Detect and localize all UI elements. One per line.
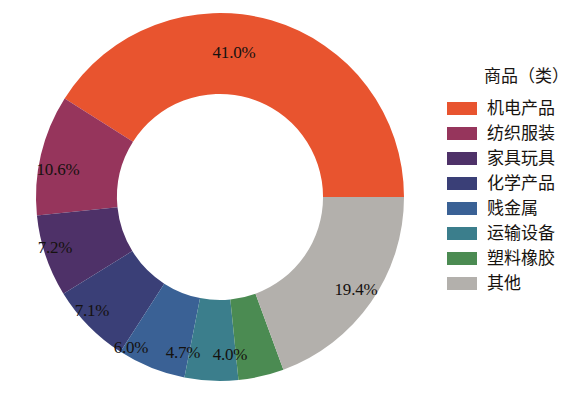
legend-item[interactable]: 其他 — [447, 271, 588, 296]
legend-item-label: 塑料橡胶 — [487, 250, 555, 267]
legend-item[interactable]: 机电产品 — [447, 96, 588, 121]
legend-swatch-icon — [447, 152, 477, 165]
slice-percentage-label: 7.2% — [38, 238, 73, 258]
donut-slice[interactable] — [256, 197, 404, 370]
legend-item-label: 家具玩具 — [487, 150, 555, 167]
slice-percentage-label: 4.0% — [213, 345, 248, 365]
donut-chart-figure: 41.0%10.6%7.2%7.1%6.0%4.7%4.0%19.4% 商品（类… — [0, 0, 588, 394]
legend-item-label: 机电产品 — [487, 100, 555, 117]
legend-swatch-icon — [447, 277, 477, 290]
legend-item[interactable]: 运输设备 — [447, 221, 588, 246]
legend-item-label: 运输设备 — [487, 225, 555, 242]
legend-swatch-icon — [447, 102, 477, 115]
legend: 商品（类） 机电产品纺织服装家具玩具化学产品贱金属运输设备塑料橡胶其他 — [447, 62, 588, 296]
slice-percentage-label: 7.1% — [75, 301, 110, 321]
legend-item[interactable]: 贱金属 — [447, 196, 588, 221]
legend-swatch-icon — [447, 177, 477, 190]
legend-swatch-icon — [447, 202, 477, 215]
legend-swatch-icon — [447, 127, 477, 140]
legend-item[interactable]: 化学产品 — [447, 171, 588, 196]
donut-plot-area: 41.0%10.6%7.2%7.1%6.0%4.7%4.0%19.4% — [0, 0, 440, 394]
legend-item-label: 化学产品 — [487, 175, 555, 192]
legend-item[interactable]: 纺织服装 — [447, 121, 588, 146]
legend-item-label: 贱金属 — [487, 200, 538, 217]
legend-item-label: 纺织服装 — [487, 125, 555, 142]
legend-item-list: 机电产品纺织服装家具玩具化学产品贱金属运输设备塑料橡胶其他 — [447, 96, 588, 296]
slice-percentage-label: 6.0% — [114, 338, 149, 358]
legend-swatch-icon — [447, 252, 477, 265]
legend-item[interactable]: 家具玩具 — [447, 146, 588, 171]
legend-item[interactable]: 塑料橡胶 — [447, 246, 588, 271]
slice-percentage-label: 41.0% — [213, 43, 256, 63]
donut-slice-group — [36, 13, 404, 381]
legend-title: 商品（类） — [447, 62, 588, 87]
slice-percentage-label: 4.7% — [166, 343, 201, 363]
legend-item-label: 其他 — [487, 275, 521, 292]
legend-swatch-icon — [447, 227, 477, 240]
slice-percentage-label: 10.6% — [37, 160, 80, 180]
slice-percentage-label: 19.4% — [335, 280, 378, 300]
